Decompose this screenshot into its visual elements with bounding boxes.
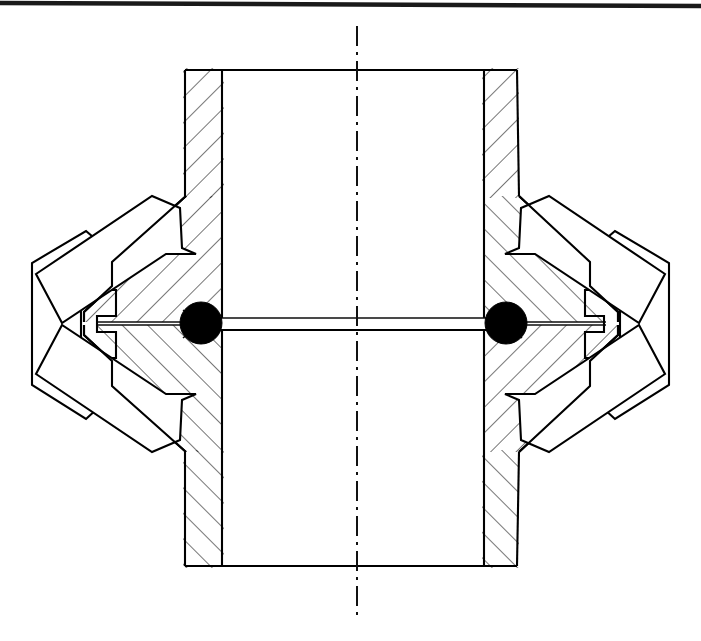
- tube-wall-hatch-upper-right: [482, 68, 519, 198]
- sealing-ball-right: [485, 302, 527, 344]
- technical-drawing-canvas: [0, 0, 701, 641]
- central-bore-slot-group: [201, 318, 506, 330]
- tube-wall-hatch-lower-left: [183, 450, 224, 568]
- tube-wall-hatch-upper-left: [183, 68, 224, 198]
- bore-slot-fill: [201, 318, 506, 330]
- sealing-ball-left: [180, 302, 222, 344]
- cross-section-figure: [0, 0, 701, 641]
- scan-page-edge: [0, 3, 701, 6]
- tube-wall-hatch-lower-right: [482, 450, 519, 568]
